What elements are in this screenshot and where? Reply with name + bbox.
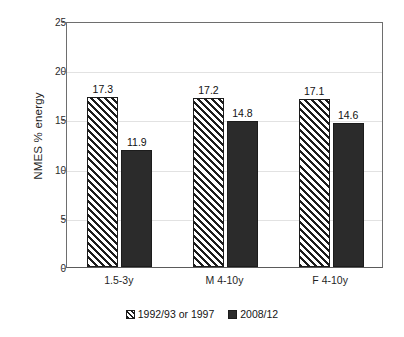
- y-tick-label: 15: [26, 115, 66, 126]
- legend-item[interactable]: 1992/93 or 1997: [126, 308, 214, 320]
- bar-group: 17.311.9: [67, 23, 173, 267]
- bar-value-label: 14.6: [338, 109, 358, 121]
- bar-chart: NMES % energy 0510152025 17.311.917.214.…: [0, 0, 404, 337]
- bar: 17.2: [193, 98, 224, 267]
- bar-group: 17.114.6: [278, 23, 384, 267]
- bar: 17.3: [87, 97, 118, 267]
- y-tick-mark: [62, 268, 66, 269]
- y-tick-label: 20: [26, 66, 66, 77]
- legend-label: 2008/12: [240, 308, 278, 320]
- bar-value-label: 17.1: [304, 85, 324, 97]
- bar-value-label: 17.2: [198, 84, 218, 96]
- legend-swatch-icon: [228, 310, 237, 319]
- legend-item[interactable]: 2008/12: [228, 308, 278, 320]
- bar: 14.8: [227, 121, 258, 267]
- y-tick-label: 25: [26, 17, 66, 28]
- x-tick-label: M 4-10y: [206, 274, 244, 286]
- x-axis-labels: 1.5-3yM 4-10yF 4-10y: [66, 274, 383, 290]
- bar: 17.1: [299, 99, 330, 267]
- y-tick-label: 5: [26, 213, 66, 224]
- chart-legend: 1992/93 or 19972008/12: [0, 308, 404, 320]
- legend-label: 1992/93 or 1997: [138, 308, 214, 320]
- legend-swatch-icon: [126, 310, 135, 319]
- bar-value-label: 17.3: [93, 83, 113, 95]
- y-axis-ticks: 0510152025: [20, 22, 66, 268]
- bar: 11.9: [121, 150, 152, 267]
- x-tick-label: F 4-10y: [312, 274, 348, 286]
- x-tick-label: 1.5-3y: [104, 274, 133, 286]
- bar-group: 17.214.8: [173, 23, 279, 267]
- bar: 14.6: [333, 123, 364, 267]
- bar-value-label: 11.9: [127, 136, 147, 148]
- bar-value-label: 14.8: [232, 107, 252, 119]
- plot-area: 17.311.917.214.817.114.6: [66, 22, 383, 268]
- y-tick-label: 10: [26, 164, 66, 175]
- y-tick-label: 0: [26, 263, 66, 274]
